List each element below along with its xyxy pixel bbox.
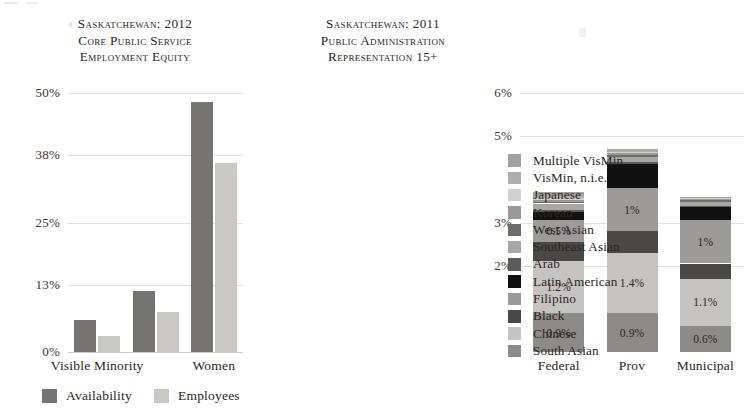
y-axis-tick-label: 5%: [460, 128, 512, 144]
left-chart-legend: AvailabilityEmployees: [42, 386, 252, 408]
segment-vismin-n-i-e-: [680, 197, 731, 198]
legend-swatch-arab: [508, 258, 521, 271]
left-legend-label: Availability: [66, 388, 132, 404]
y-axis-tick-label: 2%: [460, 258, 512, 274]
segment-japanese: [680, 198, 731, 199]
right-legend-item: Southeast Asian: [508, 238, 650, 255]
right-legend-item: Korean: [508, 204, 650, 221]
segment-arab: [680, 206, 731, 208]
left-legend-item: Employees: [154, 388, 240, 404]
x-axis-category-label: Municipal: [635, 358, 748, 374]
right-legend-item: Latin American: [508, 273, 650, 290]
right-legend-label: VisMin, n.i.e.: [533, 170, 607, 186]
y-axis-tick-label: 50%: [8, 85, 60, 101]
right-legend-label: Filipino: [533, 291, 576, 307]
right-legend-item: Filipino: [508, 290, 650, 307]
right-legend-label: Latin American: [533, 274, 618, 290]
right-legend-label: Korean: [533, 205, 573, 221]
right-legend-label: Southeast Asian: [533, 239, 620, 255]
right-legend-item: Multiple VisMin: [508, 152, 650, 169]
segment-black: [680, 264, 731, 279]
segment-filipino: [680, 220, 731, 263]
left-chart-plot-area: 0%13%25%38%50%Visible MinorityWomen: [0, 0, 250, 416]
legend-swatch-multiple-vismin: [508, 154, 521, 167]
x-axis-baseline: [68, 352, 243, 353]
y-gridline: [520, 93, 744, 94]
right-legend-item: Arab: [508, 256, 650, 273]
segment-multiple-vismin: [607, 149, 658, 150]
segment-west-asian: [680, 200, 731, 201]
right-legend-item: Black: [508, 308, 650, 325]
left-legend-item: Availability: [42, 388, 132, 404]
legend-swatch-black: [508, 310, 521, 323]
right-legend-item: Japanese: [508, 187, 650, 204]
left-legend-label: Employees: [178, 388, 240, 404]
legend-swatch-chinese: [508, 327, 521, 340]
bar-availability: [74, 320, 96, 352]
right-legend-item: West Asian: [508, 221, 650, 238]
bar-availability: [191, 102, 213, 352]
bar-employees: [215, 163, 237, 352]
right-legend-item: Chinese: [508, 325, 650, 342]
y-axis-tick-label: 13%: [8, 277, 60, 293]
bar-availability: [133, 291, 155, 352]
segment-latin-american: [680, 207, 731, 220]
right-legend-item: VisMin, n.i.e.: [508, 169, 650, 186]
right-legend-label: South Asian: [533, 343, 599, 359]
y-axis-tick-label: 3%: [460, 215, 512, 231]
y-gridline: [68, 155, 243, 156]
segment-south-asian: [680, 326, 731, 352]
segment-korean: [680, 199, 731, 200]
legend-swatch-korean: [508, 206, 521, 219]
y-axis-tick-label: 38%: [8, 147, 60, 163]
right-legend-label: Multiple VisMin: [533, 153, 623, 169]
legend-swatch-southeast-asian: [508, 241, 521, 254]
legend-swatch-filipino: [508, 293, 521, 306]
right-chart-plot-area: 2%3%5%6%0.9%1.2%0.5%Federal0.9%1.4%1%Pro…: [250, 0, 505, 416]
right-chart-legend: Multiple VisMinVisMin, n.i.e.JapaneseKor…: [508, 152, 650, 360]
legend-swatch-vismin-n-i-e-: [508, 172, 521, 185]
legend-swatch-employees: [154, 389, 169, 403]
legend-swatch-japanese: [508, 189, 521, 202]
right-legend-label: Chinese: [533, 326, 577, 342]
right-legend-label: Arab: [533, 256, 560, 272]
bar-employees: [98, 336, 120, 352]
legend-swatch-availability: [42, 389, 57, 403]
stacked-bar-municipal: 0.6%1.1%1%: [680, 197, 731, 352]
right-legend-label: West Asian: [533, 222, 594, 238]
right-legend-item: South Asian: [508, 342, 650, 359]
legend-swatch-latin-american: [508, 275, 521, 288]
y-axis-tick-label: 6%: [460, 85, 512, 101]
scan-artifact: [579, 28, 586, 37]
y-gridline: [68, 93, 243, 94]
right-legend-label: Japanese: [533, 187, 581, 203]
segment-chinese: [680, 279, 731, 326]
legend-swatch-west-asian: [508, 224, 521, 237]
segment-southeast-asian: [680, 202, 731, 206]
right-legend-label: Black: [533, 308, 565, 324]
y-gridline: [520, 136, 744, 137]
legend-swatch-south-asian: [508, 345, 521, 358]
bar-employees: [157, 312, 179, 352]
y-axis-tick-label: 25%: [8, 215, 60, 231]
